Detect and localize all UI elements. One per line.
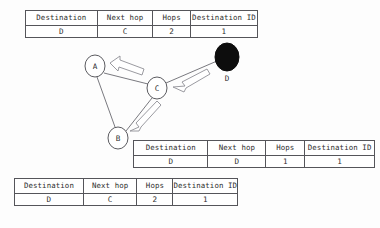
cell-destination: D <box>26 26 98 38</box>
header-next-hop: Next hop <box>97 11 153 26</box>
table-header-row: Destination Next hop Hops Destination ID <box>15 179 238 194</box>
header-hops: Hops <box>266 141 305 156</box>
cell-hops: 2 <box>153 26 190 38</box>
node-label-b: B <box>110 135 126 143</box>
link-a-b <box>97 77 115 127</box>
cell-destination-id: 1 <box>190 26 257 38</box>
table-row: D C 2 1 <box>15 194 238 206</box>
node-label-c: C <box>149 85 165 93</box>
arrow-c-to-a <box>110 56 144 75</box>
routing-table-middle: Destination Next hop Hops Destination ID… <box>133 140 375 168</box>
cell-destination: D <box>15 194 84 206</box>
figure-canvas: A B C D Destination Next hop Hops Destin… <box>0 0 380 228</box>
diagram-nodes <box>85 43 239 149</box>
header-destination: Destination <box>134 141 208 156</box>
header-destination-id: Destination ID <box>305 141 375 156</box>
cell-destination: D <box>134 156 208 168</box>
header-next-hop: Next hop <box>208 141 266 156</box>
routing-table-top: Destination Next hop Hops Destination ID… <box>25 10 258 38</box>
routing-table-bottom: Destination Next hop Hops Destination ID… <box>14 178 238 206</box>
header-destination-id: Destination ID <box>190 11 257 26</box>
header-destination: Destination <box>15 179 84 194</box>
cell-hops: 1 <box>266 156 305 168</box>
cell-next-hop: D <box>208 156 266 168</box>
header-destination: Destination <box>26 11 98 26</box>
header-next-hop: Next hop <box>83 179 137 194</box>
cell-destination-id: 1 <box>173 194 238 206</box>
table-row: D D 1 1 <box>134 156 375 168</box>
table-header-row: Destination Next hop Hops Destination ID <box>26 11 258 26</box>
table-header-row: Destination Next hop Hops Destination ID <box>134 141 375 156</box>
cell-next-hop: C <box>97 26 153 38</box>
node-label-a: A <box>87 63 103 71</box>
table-row: D C 2 1 <box>26 26 258 38</box>
cell-hops: 2 <box>137 194 173 206</box>
node-d <box>215 43 239 71</box>
header-hops: Hops <box>137 179 173 194</box>
cell-next-hop: C <box>83 194 137 206</box>
arrow-c-to-b <box>130 101 161 131</box>
header-destination-id: Destination ID <box>173 179 238 194</box>
header-hops: Hops <box>153 11 190 26</box>
cell-destination-id: 1 <box>305 156 375 168</box>
node-label-d: D <box>219 75 235 83</box>
